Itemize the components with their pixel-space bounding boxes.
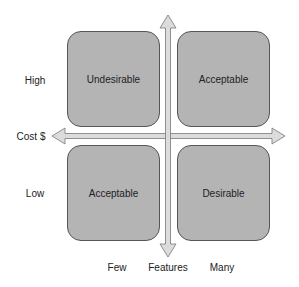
quadrant-label: Acceptable <box>89 188 138 199</box>
y-axis-high-label: High <box>25 75 46 86</box>
x-axis-title: Features <box>148 262 187 273</box>
x-axis-high-label: Many <box>210 262 234 273</box>
quadrant-label: Undesirable <box>87 74 140 85</box>
y-axis-title: Cost $ <box>17 131 46 142</box>
y-axis-low-label: Low <box>26 188 44 199</box>
quadrant-top-left: Undesirable <box>67 31 160 127</box>
x-axis-low-label: Few <box>108 262 127 273</box>
quadrant-label: Desirable <box>202 188 244 199</box>
quadrant-top-right: Acceptable <box>177 31 270 127</box>
quadrant-bottom-left: Acceptable <box>67 145 160 241</box>
quadrant-label: Acceptable <box>199 74 248 85</box>
quadrant-bottom-right: Desirable <box>177 145 270 241</box>
